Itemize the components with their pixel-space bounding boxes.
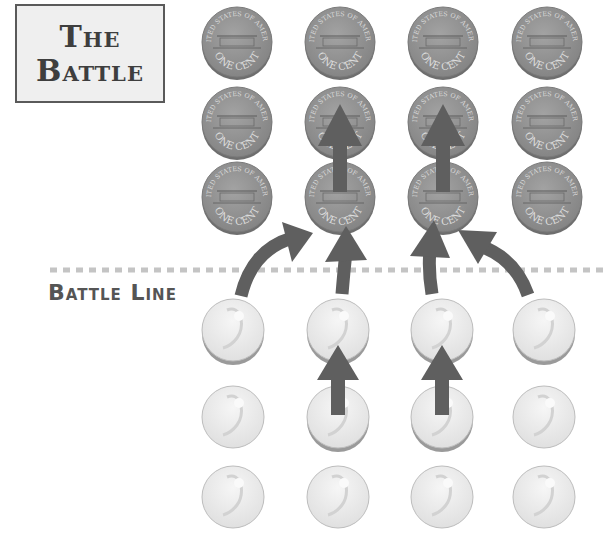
battle-line-label: Battle Line <box>48 280 177 305</box>
penny-coin: UNITED STATES OF AMERICAONE CENT <box>512 7 582 80</box>
dime-coin <box>513 386 575 448</box>
penny-coin: UNITED STATES OF AMERICAONE CENT <box>512 162 582 235</box>
dime-coin <box>513 466 575 528</box>
dime-coin <box>411 466 473 528</box>
curved-arrow-4 <box>458 230 528 295</box>
penny-coin: UNITED STATES OF AMERICAONE CENT <box>408 7 478 80</box>
penny-coin: UNITED STATES OF AMERICAONE CENT <box>512 87 582 160</box>
dime-coin <box>202 386 264 448</box>
penny-coin: UNITED STATES OF AMERICAONE CENT <box>202 7 272 80</box>
dime-grid <box>202 299 575 528</box>
battle-diagram: UNITED STATES OF AMERICAONE CENTUNITED S… <box>0 0 614 543</box>
dime-coin <box>202 299 264 365</box>
dime-coin <box>513 299 575 365</box>
penny-coin: UNITED STATES OF AMERICAONE CENT <box>202 162 272 235</box>
penny-coin: UNITED STATES OF AMERICAONE CENT <box>305 7 375 80</box>
penny-coin: UNITED STATES OF AMERICAONE CENT <box>202 87 272 160</box>
curved-arrow-1 <box>241 222 313 296</box>
dime-coin <box>202 466 264 528</box>
penny-grid: UNITED STATES OF AMERICAONE CENTUNITED S… <box>202 7 582 235</box>
curved-arrow-2 <box>325 226 367 294</box>
dime-coin <box>307 466 369 528</box>
